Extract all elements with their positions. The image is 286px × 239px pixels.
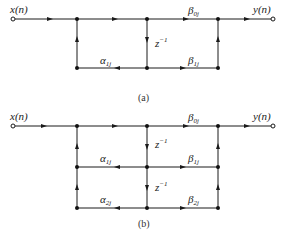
arrow-left-icon — [114, 206, 120, 210]
coeff-beta-1: β1j — [187, 152, 199, 166]
arrow-right-icon — [112, 17, 118, 21]
arrow-right-icon — [112, 124, 118, 128]
output-label: y(n) — [252, 110, 271, 123]
arrow-down-icon — [145, 144, 149, 150]
input-terminal — [11, 124, 15, 128]
arrow-down-icon — [145, 185, 149, 191]
node — [75, 165, 79, 169]
coeff-alpha-2: α2j — [100, 193, 111, 207]
caption-a: (a) — [138, 92, 149, 104]
output-terminal — [271, 17, 275, 21]
node — [75, 124, 79, 128]
arrow-right-icon — [180, 206, 186, 210]
arrow-right-icon — [180, 165, 186, 169]
arrow-up-icon — [75, 36, 79, 42]
node — [75, 66, 79, 70]
arrow-up-icon — [216, 143, 220, 149]
input-label: x(n) — [9, 110, 28, 123]
arrow-left-icon — [114, 165, 120, 169]
node — [145, 66, 149, 70]
coeff-beta-0: β0j — [187, 4, 199, 18]
diagram-a: x(n) y(n) β0j β1j α1j z−1 (a) — [9, 3, 275, 104]
node — [216, 17, 220, 21]
input-label: x(n) — [9, 3, 28, 16]
arrow-right-icon — [183, 17, 189, 21]
node — [75, 206, 79, 210]
node — [145, 165, 149, 169]
arrow-right-icon — [183, 124, 189, 128]
arrow-up-icon — [75, 143, 79, 149]
delay-label: z−1 — [154, 36, 168, 49]
arrow-up-icon — [75, 184, 79, 190]
arrow-up-icon — [216, 36, 220, 42]
arrow-right-icon — [180, 66, 186, 70]
node — [75, 17, 79, 21]
coeff-beta-0: β0j — [187, 111, 199, 125]
arrow-right-icon — [244, 17, 250, 21]
arrow-right-icon — [244, 124, 250, 128]
arrow-up-icon — [216, 184, 220, 190]
coeff-alpha-1: α1j — [100, 152, 111, 166]
node — [145, 17, 149, 21]
input-terminal — [11, 17, 15, 21]
node — [145, 124, 149, 128]
arrow-left-icon — [114, 66, 120, 70]
node — [216, 124, 220, 128]
output-label: y(n) — [252, 3, 271, 16]
arrow-right-icon — [41, 124, 47, 128]
node — [216, 206, 220, 210]
signal-flow-diagrams: x(n) y(n) β0j β1j α1j z−1 (a) — [0, 0, 286, 239]
delay-label-2: z−1 — [154, 180, 168, 193]
coeff-beta-2: β2j — [187, 193, 199, 207]
node — [216, 66, 220, 70]
caption-b: (b) — [138, 218, 150, 230]
node — [216, 165, 220, 169]
output-terminal — [271, 124, 275, 128]
delay-label-1: z−1 — [154, 137, 168, 150]
coeff-beta-1: β1j — [187, 54, 199, 68]
node — [145, 206, 149, 210]
arrow-down-icon — [145, 37, 149, 43]
arrow-right-icon — [47, 17, 53, 21]
diagram-b: x(n) y(n) β0j β1j β2j α1j α2j z−1 z−1 (b… — [9, 110, 275, 230]
coeff-alpha-1: α1j — [100, 54, 111, 68]
